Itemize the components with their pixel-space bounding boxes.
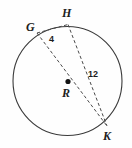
geometry-canvas xyxy=(0,0,132,148)
point-label-h: H xyxy=(62,7,71,19)
point-label-g: G xyxy=(26,21,35,33)
point-label-k: K xyxy=(103,130,111,142)
measure-label-hk: 12 xyxy=(88,70,98,79)
center-label-r: R xyxy=(62,87,70,99)
circle-geometry-figure: G H K R 4 12 xyxy=(0,0,132,148)
measure-label-gh: 4 xyxy=(49,35,54,44)
center-point-marker xyxy=(65,79,70,84)
segment-diameter-gk xyxy=(37,33,107,126)
